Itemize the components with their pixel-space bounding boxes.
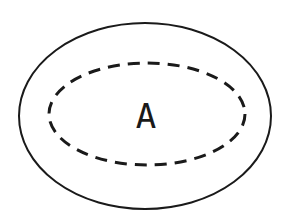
region-label-a: A — [136, 96, 156, 136]
diagram-canvas: A — [0, 0, 294, 224]
ellipse-diagram: A — [0, 0, 294, 224]
